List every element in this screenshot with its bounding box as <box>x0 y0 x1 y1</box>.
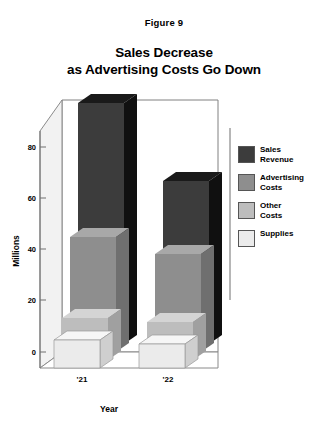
legend-label-line-1: Other <box>260 201 282 211</box>
legend-label-advertising-costs: Advertising Costs <box>260 173 304 192</box>
y-tick-label-80: 80 <box>18 143 36 152</box>
y-axis-title: Millions <box>11 228 21 274</box>
x-tick-label-22: '22 <box>148 375 188 384</box>
plot-left-wall <box>40 100 62 368</box>
bar-21-supplies <box>54 331 113 368</box>
legend-item-other-costs[interactable]: Other Costs <box>238 201 326 220</box>
x-axis-title: Year <box>0 404 218 414</box>
legend-item-sales-revenue[interactable]: Sales Revenue <box>238 145 326 164</box>
legend-label-line-1: Supplies <box>260 229 293 239</box>
legend-label-line-2: Costs <box>260 183 304 193</box>
legend-swatch-sales-revenue <box>238 146 255 163</box>
legend-item-advertising-costs[interactable]: Advertising Costs <box>238 173 326 192</box>
legend-swatch-advertising-costs <box>238 174 255 191</box>
bar-front-face <box>54 340 100 368</box>
legend-label-line-2: Revenue <box>260 155 293 165</box>
chart-legend: Sales Revenue Advertising Costs Other Co… <box>238 145 326 256</box>
x-tick-label-21: '21 <box>62 375 102 384</box>
legend-swatch-supplies <box>238 230 255 247</box>
bar-front-face <box>139 344 185 368</box>
y-tick-label-60: 60 <box>18 194 36 203</box>
figure-container: Figure 9 Sales Decrease as Advertising C… <box>0 0 328 434</box>
y-tick-label-20: 20 <box>18 296 36 305</box>
bar-22-supplies <box>139 335 198 368</box>
legend-label-other-costs: Other Costs <box>260 201 282 220</box>
legend-label-line-2: Costs <box>260 211 282 221</box>
legend-label-supplies: Supplies <box>260 229 293 239</box>
legend-label-sales-revenue: Sales Revenue <box>260 145 293 164</box>
legend-label-line-1: Advertising <box>260 173 304 183</box>
legend-swatch-other-costs <box>238 202 255 219</box>
legend-label-line-1: Sales <box>260 145 293 155</box>
y-tick-label-0: 0 <box>18 348 36 357</box>
legend-item-supplies[interactable]: Supplies <box>238 229 326 247</box>
